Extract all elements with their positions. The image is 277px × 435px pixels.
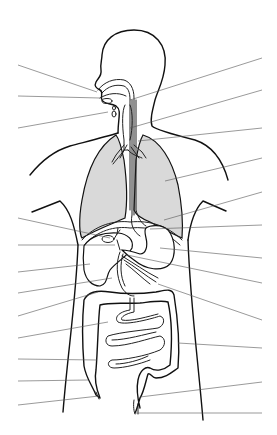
oral-cavity — [100, 94, 126, 98]
salivary-gland-2 — [113, 106, 116, 110]
duodenum-inner — [121, 254, 125, 286]
left-arm-cut — [32, 201, 78, 245]
small-intestine — [106, 298, 165, 368]
right-arm-cut — [188, 201, 226, 240]
digestive-system-diagram — [0, 0, 277, 435]
liver — [83, 233, 132, 286]
right-torso-line — [188, 240, 203, 420]
salivary-gland — [112, 111, 116, 117]
